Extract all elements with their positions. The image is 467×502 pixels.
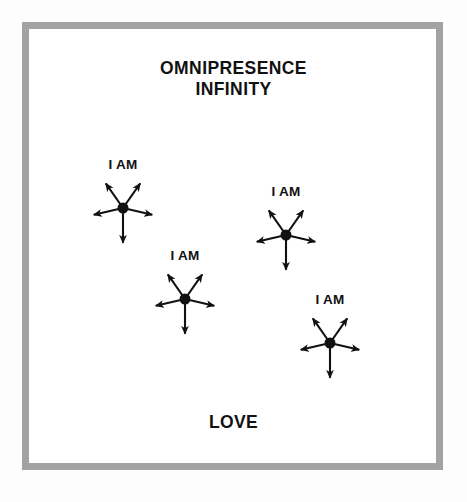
starburst-node <box>257 210 315 269</box>
page-title-line-2: INFINITY <box>0 79 467 100</box>
node-label-1: I AM <box>108 157 137 172</box>
node-center-dot <box>118 203 129 214</box>
node-center-dot <box>180 294 191 305</box>
page-title: OMNIPRESENCE INFINITY <box>0 58 467 100</box>
starburst-node <box>94 183 152 242</box>
diagram-page: OMNIPRESENCE INFINITY LOVE I AMI AMI AMI… <box>0 0 467 502</box>
node-label-3: I AM <box>170 248 199 263</box>
node-label-2: I AM <box>271 184 300 199</box>
starburst-nodes-layer <box>94 183 359 377</box>
footer-word: LOVE <box>0 412 467 433</box>
starburst-node <box>301 318 359 377</box>
node-center-dot <box>281 230 292 241</box>
page-title-line-1: OMNIPRESENCE <box>0 58 467 79</box>
node-label-4: I AM <box>315 292 344 307</box>
starburst-node <box>156 274 214 333</box>
node-center-dot <box>325 338 336 349</box>
